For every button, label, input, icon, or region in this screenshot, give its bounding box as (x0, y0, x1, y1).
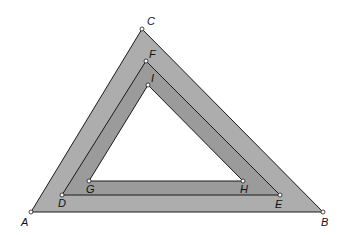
label-b: B (321, 216, 328, 228)
label-c: C (147, 15, 155, 27)
triangle-diagram: A B C D E F G H I (0, 0, 344, 235)
point-e (278, 193, 282, 197)
label-a: A (20, 216, 28, 228)
point-i (146, 83, 150, 87)
point-a (29, 210, 33, 214)
point-b (321, 210, 325, 214)
label-i: I (151, 72, 154, 84)
point-c (140, 27, 144, 31)
label-g: G (86, 183, 95, 195)
label-d: D (58, 197, 66, 209)
point-f (144, 59, 148, 63)
label-e: E (275, 198, 283, 210)
label-h: H (240, 183, 248, 195)
